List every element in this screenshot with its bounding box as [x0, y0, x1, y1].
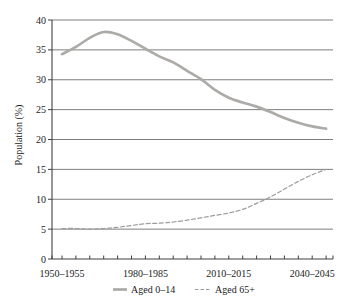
y-tick-label: 30	[36, 74, 46, 85]
x-tick-label: 2010–2015	[206, 268, 251, 279]
x-tick-label: 2040–2045	[290, 268, 335, 279]
chart-canvas: 0510152025303540 1950–19551980–19852010–…	[0, 0, 355, 307]
population-age-chart: 0510152025303540 1950–19551980–19852010–…	[0, 0, 355, 307]
legend-label-aged-65plus: Aged 65+	[215, 284, 255, 295]
y-tick-label: 10	[36, 194, 46, 205]
x-tick-label: 1950–1955	[40, 268, 85, 279]
x-axis-tick-labels: 1950–19551980–19852010–20152040–2045	[40, 268, 335, 279]
y-tick-label: 20	[36, 134, 46, 145]
y-tick-label: 15	[36, 164, 46, 175]
series-line-aged-0-14	[62, 32, 326, 129]
y-tick-label: 5	[41, 224, 46, 235]
x-tick-label: 1980–1985	[123, 268, 168, 279]
y-axis-title: Population (%)	[13, 105, 25, 166]
y-tick-label: 25	[36, 104, 46, 115]
legend-label-aged-0-14: Aged 0–14	[131, 284, 175, 295]
y-axis-tick-labels: 0510152025303540	[36, 15, 46, 265]
legend: Aged 0–14 Aged 65+	[113, 284, 255, 295]
y-tick-label: 0	[41, 254, 46, 265]
gridlines	[48, 20, 333, 259]
y-tick-label: 35	[36, 44, 46, 55]
y-tick-label: 40	[36, 15, 46, 26]
